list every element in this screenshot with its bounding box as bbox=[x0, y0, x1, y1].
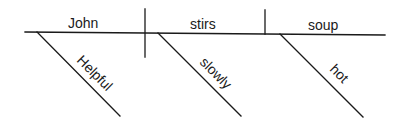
verb-modifier-word: slowly bbox=[197, 54, 235, 92]
verb-word: stirs bbox=[190, 16, 216, 32]
sentence-diagram: John stirs soup Helpful slowly hot bbox=[0, 0, 405, 125]
object-word: soup bbox=[308, 17, 339, 33]
object-modifier-word: hot bbox=[327, 61, 352, 86]
subject-modifier-word: Helpful bbox=[74, 52, 116, 94]
subject-word: John bbox=[68, 15, 98, 31]
